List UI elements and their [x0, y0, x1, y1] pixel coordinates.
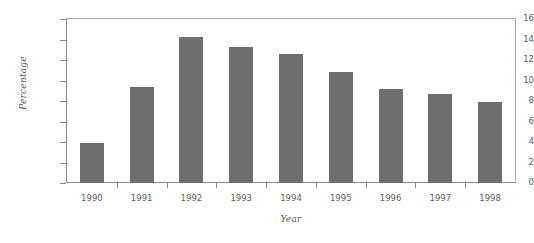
x-axis-tick-label: 1995 — [316, 193, 366, 203]
y-axis-title: Percentage — [18, 43, 28, 123]
bar — [130, 87, 154, 183]
bar — [428, 94, 452, 183]
bar — [80, 143, 104, 183]
x-axis-tick — [266, 183, 267, 188]
x-axis-tick — [415, 183, 416, 188]
x-axis-tick-label: 1992 — [167, 193, 217, 203]
bar — [478, 102, 502, 183]
y-axis-tick — [60, 60, 66, 61]
x-axis-tick-label: 1998 — [465, 193, 515, 203]
x-axis-tick — [216, 183, 217, 188]
x-axis-tick — [465, 183, 466, 188]
bar-chart: Percentage 0246810121416 199019911992199… — [0, 0, 534, 243]
x-axis-tick-label: 1997 — [415, 193, 465, 203]
y-axis-tick — [60, 122, 66, 123]
bars-layer — [67, 19, 515, 183]
x-axis-tick — [366, 183, 367, 188]
y-axis-tick — [60, 40, 66, 41]
bar — [329, 72, 353, 183]
bar — [179, 37, 203, 183]
x-axis-title: Year — [0, 214, 534, 224]
x-axis-tick — [316, 183, 317, 188]
x-axis-tick — [117, 183, 118, 188]
y-axis-tick — [60, 19, 66, 20]
y-axis-tick — [60, 101, 66, 102]
x-axis-tick — [167, 183, 168, 188]
y-axis-tick — [60, 163, 66, 164]
bar — [379, 89, 403, 183]
x-axis-tick-label: 1991 — [117, 193, 167, 203]
bar — [229, 47, 253, 183]
bar — [279, 54, 303, 183]
x-axis-tick-label: 1996 — [366, 193, 416, 203]
x-axis-tick-label: 1994 — [266, 193, 316, 203]
x-axis-tick-label: 1990 — [67, 193, 117, 203]
x-axis-tick-label: 1993 — [216, 193, 266, 203]
y-axis-tick — [60, 142, 66, 143]
y-axis-tick — [60, 183, 66, 184]
y-axis-tick — [60, 81, 66, 82]
